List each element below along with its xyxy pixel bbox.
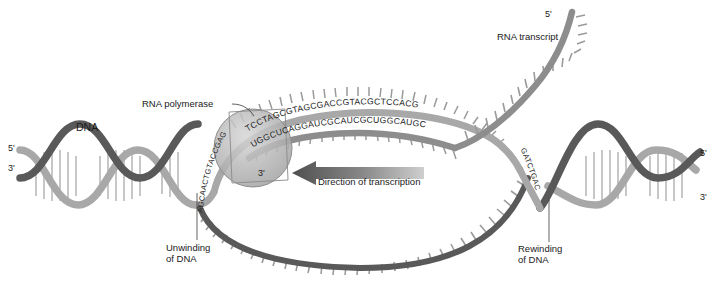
prime-rna-three: 3' bbox=[258, 168, 265, 178]
label-dna: DNA bbox=[76, 122, 98, 133]
prime-left-bottom: 3' bbox=[8, 163, 15, 173]
label-direction-of-transcription: Direction of transcription bbox=[318, 176, 420, 187]
right-dna-helix bbox=[540, 124, 700, 208]
label-rna-polymerase: RNA polymerase bbox=[142, 98, 213, 109]
prime-rna-five: 5' bbox=[545, 9, 552, 19]
prime-right-top: 5' bbox=[700, 148, 707, 158]
diagram-canvas: AGCAACTGTACCGAG TCCTAGCGTAGCGACCGTACGCTC… bbox=[0, 0, 719, 285]
label-rewinding-of-dna: Rewinding of DNA bbox=[518, 243, 562, 265]
label-unwinding-of-dna: Unwinding of DNA bbox=[166, 242, 210, 264]
transcription-diagram: AGCAACTGTACCGAG TCCTAGCGTAGCGACCGTACGCTC… bbox=[0, 0, 719, 285]
prime-left-top: 5' bbox=[8, 143, 15, 153]
prime-right-bottom: 3' bbox=[700, 192, 707, 202]
label-rna-transcript: RNA transcript bbox=[497, 31, 558, 42]
left-dna-helix bbox=[20, 124, 214, 205]
bubble-lower-strand bbox=[200, 178, 528, 275]
